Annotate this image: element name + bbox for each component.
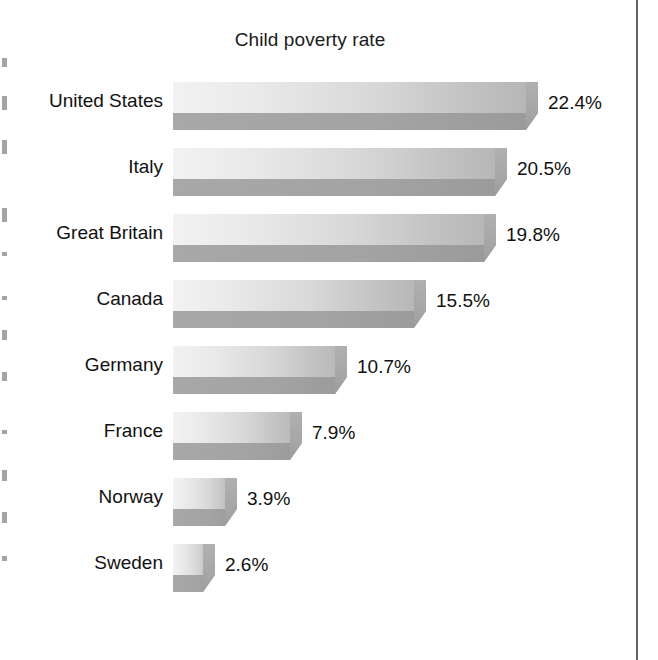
bar-row: United States22.4%: [0, 82, 658, 132]
category-label: United States: [0, 90, 163, 112]
bar-bottom-face: [173, 113, 538, 130]
value-label: 19.8%: [506, 224, 560, 246]
bar-end-cap: [495, 148, 507, 196]
bar-row: Sweden2.6%: [0, 544, 658, 594]
bar-top-face: [173, 82, 538, 113]
category-label: Norway: [0, 486, 163, 508]
bar-top-face: [173, 346, 347, 377]
bar: [173, 82, 538, 130]
bar: [173, 148, 507, 196]
bar-end-cap: [225, 478, 237, 526]
bar: [173, 478, 237, 526]
bar-row: Canada15.5%: [0, 280, 658, 330]
bar-end-cap: [526, 82, 538, 130]
value-label: 10.7%: [357, 356, 411, 378]
bar-bottom-face: [173, 245, 496, 262]
bar: [173, 280, 426, 328]
value-label: 2.6%: [225, 554, 268, 576]
bar-top-face: [173, 214, 496, 245]
bar-row: Norway3.9%: [0, 478, 658, 528]
category-label: Sweden: [0, 552, 163, 574]
bar-row: Germany10.7%: [0, 346, 658, 396]
category-label: Germany: [0, 354, 163, 376]
value-label: 7.9%: [312, 422, 355, 444]
bar-chart-plot-area: United States22.4%Italy20.5%Great Britai…: [0, 0, 658, 660]
bar-top-face: [173, 148, 507, 179]
bar-row: Great Britain19.8%: [0, 214, 658, 264]
category-label: Italy: [0, 156, 163, 178]
value-label: 20.5%: [517, 158, 571, 180]
bar: [173, 346, 347, 394]
category-label: France: [0, 420, 163, 442]
value-label: 15.5%: [436, 290, 490, 312]
bar-end-cap: [203, 544, 215, 592]
value-label: 22.4%: [548, 92, 602, 114]
value-label: 3.9%: [247, 488, 290, 510]
bar-bottom-face: [173, 377, 347, 394]
bar-bottom-face: [173, 179, 507, 196]
chart-page: Child poverty rate United States22.4%Ita…: [0, 0, 658, 660]
bar-end-cap: [290, 412, 302, 460]
bar-top-face: [173, 280, 426, 311]
bar-end-cap: [335, 346, 347, 394]
bar-row: Italy20.5%: [0, 148, 658, 198]
bar-end-cap: [414, 280, 426, 328]
bar-row: France7.9%: [0, 412, 658, 462]
category-label: Canada: [0, 288, 163, 310]
bar-end-cap: [484, 214, 496, 262]
bar-bottom-face: [173, 443, 302, 460]
bar-top-face: [173, 412, 302, 443]
category-label: Great Britain: [0, 222, 163, 244]
bar-bottom-face: [173, 311, 426, 328]
bar: [173, 544, 215, 592]
bar: [173, 412, 302, 460]
bar: [173, 214, 496, 262]
